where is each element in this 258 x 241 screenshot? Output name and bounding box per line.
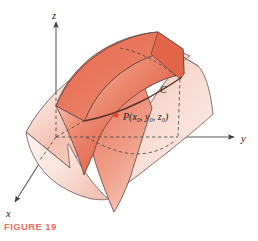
z-axis-label: z — [51, 10, 56, 21]
figure-caption: FIGURE 19 — [4, 221, 57, 232]
point-P-marker — [113, 112, 118, 117]
point-label-prefix: P( — [122, 111, 133, 123]
point-label-suffix: ) — [164, 111, 169, 123]
y-axis-label: y — [240, 133, 246, 144]
figure-container: z y x C P(x0, y0, z0) FIGURE 19 — [0, 0, 258, 241]
curve-label-C: C — [160, 84, 167, 95]
x-axis-label: x — [5, 208, 11, 219]
figure-illustration: z y x C P(x0, y0, z0) — [0, 0, 258, 241]
